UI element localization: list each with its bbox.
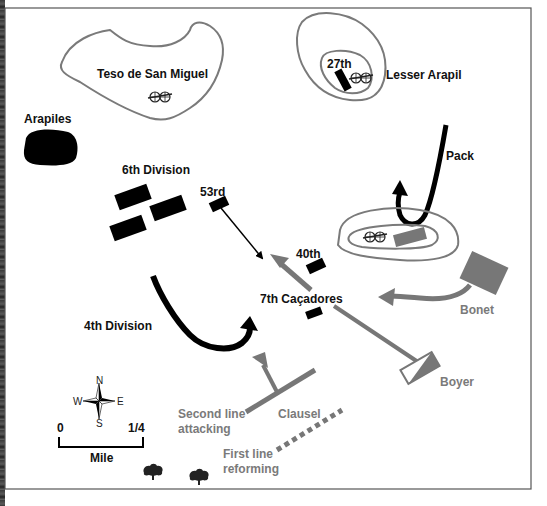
fourth-division-label: 4th Division xyxy=(84,319,152,333)
unit-40th-label: 40th xyxy=(296,247,321,261)
scale-start: 0 xyxy=(57,421,64,435)
clausel-label: Clausel xyxy=(278,407,321,421)
pack-label: Pack xyxy=(446,149,474,163)
boyer-label: Boyer xyxy=(440,375,474,389)
compass-w: W xyxy=(73,396,83,407)
scale-end: 1/4 xyxy=(128,421,145,435)
unit-53rd-label: 53rd xyxy=(200,185,225,199)
cacadores-label: 7th Caçadores xyxy=(260,292,343,306)
unit-27th-label: 27th xyxy=(327,57,352,71)
compass-s: S xyxy=(96,418,103,429)
bonet-label: Bonet xyxy=(460,303,494,317)
second-line-label-1: Second line xyxy=(178,407,246,421)
second-line-label-2: attacking xyxy=(178,422,231,436)
first-line-label-2: reforming xyxy=(223,462,279,476)
compass-n: N xyxy=(96,375,103,386)
arapiles-hill xyxy=(24,130,78,166)
sixth-division-label: 6th Division xyxy=(122,163,190,177)
teso-label: Teso de San Miguel xyxy=(97,67,208,81)
battle-map: Teso de San Miguel Arapiles 27th Lesser … xyxy=(0,0,547,506)
first-line-label-1: First line xyxy=(223,447,273,461)
compass-e: E xyxy=(117,396,124,407)
scale-unit: Mile xyxy=(90,451,114,465)
arapiles-label: Arapiles xyxy=(24,112,72,126)
lesser-arapil-label: Lesser Arapil xyxy=(386,68,462,82)
